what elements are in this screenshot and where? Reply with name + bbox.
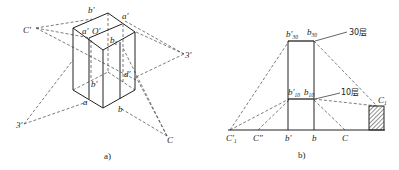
label-b-prime-top: b' (88, 5, 96, 15)
label-floor-10: 10层 (341, 88, 359, 97)
label-c-double-prime: C" (253, 133, 263, 143)
label-o-prime: O' (92, 26, 101, 36)
label-c: C (167, 135, 174, 145)
label-3-prime-right: 3' (184, 50, 193, 60)
figure-a: b' a' a' O' b1 C' 3' 3' d' b' a b C a) (15, 5, 193, 161)
label-c-prime: C' (23, 25, 32, 35)
label-b-prime-mid: b' (91, 79, 99, 89)
label-floor-30: 30层 (349, 28, 367, 37)
label-b1: b1 (110, 35, 118, 46)
label-b10-prime: b'10 (288, 87, 300, 98)
label-c: C (342, 133, 349, 143)
label-b30-prime: b'30 (286, 29, 298, 40)
label-b10: b10 (304, 87, 314, 98)
label-b-prime: b' (285, 133, 293, 143)
label-b: b (312, 133, 317, 143)
label-b: b (118, 104, 123, 114)
caption-a: a) (104, 151, 111, 161)
diagram-canvas: b' a' a' O' b1 C' 3' 3' d' b' a b C a) (0, 0, 399, 170)
figure-b: b'30 b30 30层 b'10 b10 10层 C1 C'1 C" b' b… (226, 27, 387, 160)
label-b30: b30 (307, 27, 317, 38)
label-d-prime: d' (124, 69, 132, 79)
label-3-prime-left: 3' (15, 120, 24, 130)
label-a: a (83, 97, 88, 107)
label-a-prime-o: a' (82, 26, 90, 36)
projection-lines-b (230, 41, 377, 130)
caption-b: b) (298, 150, 306, 160)
label-c1: C1 (378, 95, 387, 106)
label-a-prime-top: a' (122, 11, 130, 21)
hatched-obstacle (369, 106, 384, 130)
label-c1-prime: C'1 (226, 133, 237, 144)
building-b (228, 32, 385, 130)
